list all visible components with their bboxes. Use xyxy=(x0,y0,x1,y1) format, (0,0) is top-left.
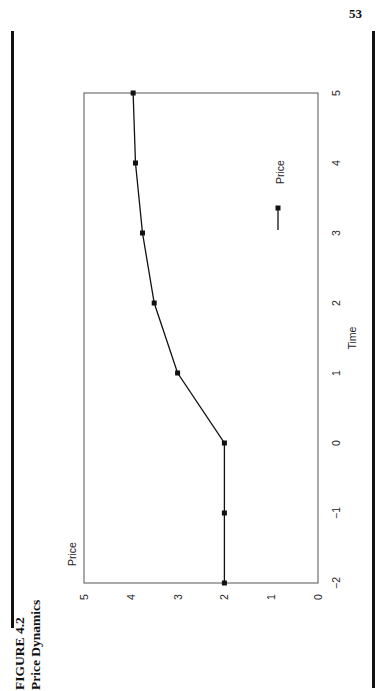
x-tick-label: −2 xyxy=(330,577,342,589)
x-tick-label: 5 xyxy=(330,90,342,96)
data-point-marker xyxy=(133,161,138,166)
data-point-marker xyxy=(222,581,227,586)
price-dynamics-chart: −2−1012345 012345 Price Time Price xyxy=(0,0,392,691)
y-tick-label: 3 xyxy=(172,594,184,600)
y-tick-label: 4 xyxy=(125,594,137,600)
x-tick-label: −1 xyxy=(330,507,342,519)
x-tick-label: 0 xyxy=(330,440,342,446)
y-tick-label: 2 xyxy=(218,594,230,600)
y-tick-label: 0 xyxy=(312,594,324,600)
legend-marker xyxy=(276,206,281,211)
series-line-price xyxy=(133,93,224,583)
y-axis-title: Price xyxy=(66,542,78,566)
x-tick-label: 2 xyxy=(330,300,342,306)
data-point-marker xyxy=(175,371,180,376)
x-axis-title: Time xyxy=(346,326,358,349)
legend: Price xyxy=(274,160,286,230)
x-tick-label: 1 xyxy=(330,370,342,376)
y-tick-label: 5 xyxy=(78,594,90,600)
data-point-marker xyxy=(222,511,227,516)
data-point-marker xyxy=(140,231,145,236)
x-tick-label: 4 xyxy=(330,160,342,166)
x-tick-labels: −2−1012345 xyxy=(330,90,342,589)
legend-label: Price xyxy=(274,160,286,184)
y-tick-label: 1 xyxy=(265,594,277,600)
y-tick-labels: 012345 xyxy=(78,594,324,600)
series-layer xyxy=(131,91,227,586)
data-point-marker xyxy=(131,91,136,96)
data-point-marker xyxy=(152,301,157,306)
data-point-marker xyxy=(222,441,227,446)
x-tick-label: 3 xyxy=(330,230,342,236)
